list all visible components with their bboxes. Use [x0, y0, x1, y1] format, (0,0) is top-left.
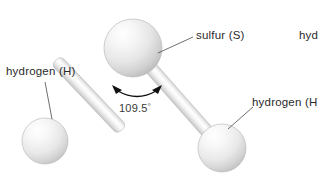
leader-line-hydrogen-right — [228, 107, 253, 129]
label-hydrogen-left: hydrogen (H) — [6, 66, 76, 78]
leader-line-sulfur — [158, 37, 193, 53]
bond-angle-value: 109.5 — [119, 102, 148, 114]
leader-line-hydrogen-left — [45, 82, 52, 119]
molecule-diagram: sulfur (S) hydrogen (H) hydrogen (H) hyd… — [0, 0, 318, 173]
atom-hydrogen-right — [198, 124, 246, 172]
label-bond-angle: 109.5° — [119, 103, 151, 114]
atom-sulfur — [104, 19, 162, 77]
label-sulfur: sulfur (S) — [196, 30, 245, 42]
molecule-illustration — [0, 0, 318, 173]
atom-hydrogen-left — [22, 118, 68, 164]
degree-symbol: ° — [148, 102, 151, 111]
label-hydrogen-clipped: hyd — [299, 30, 318, 42]
bond-angle-arc-icon — [112, 85, 162, 97]
label-hydrogen-right: hydrogen (H) — [252, 97, 318, 109]
